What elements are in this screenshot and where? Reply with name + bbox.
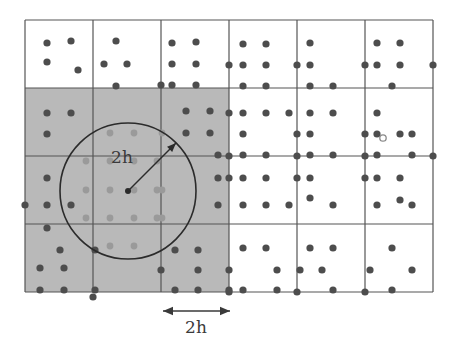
particle: [429, 61, 436, 68]
particle: [373, 201, 380, 208]
particle: [225, 61, 232, 68]
particle: [107, 130, 114, 137]
shaded-cell: [93, 224, 161, 292]
particle: [36, 264, 43, 271]
particle: [123, 60, 130, 67]
particle: [262, 61, 269, 68]
particle: [373, 61, 380, 68]
particle: [373, 109, 380, 116]
particle: [429, 152, 436, 159]
particle: [296, 266, 303, 273]
particle: [67, 109, 74, 116]
particle: [168, 81, 175, 88]
particle: [225, 288, 232, 295]
particle: [194, 246, 201, 253]
particle: [239, 201, 246, 208]
scale-bar-label: 2h: [185, 317, 207, 337]
particle: [157, 266, 164, 273]
particle: [306, 174, 313, 181]
particle: [396, 61, 403, 68]
particle: [43, 130, 50, 137]
particle: [329, 286, 336, 293]
particle: [239, 109, 246, 116]
particle: [56, 246, 63, 253]
particle: [239, 244, 246, 251]
particle: [373, 39, 380, 46]
particle: [329, 109, 336, 116]
particle: [306, 109, 313, 116]
particle: [83, 158, 90, 165]
particle: [361, 288, 368, 295]
particle: [43, 224, 50, 231]
particle: [306, 130, 313, 137]
particle: [225, 174, 232, 181]
particle: [408, 130, 415, 137]
particle: [43, 58, 50, 65]
particle-grid-diagram: 2h 2h: [0, 0, 456, 337]
particle: [361, 152, 368, 159]
shaded-cell: [161, 156, 229, 224]
particle: [318, 266, 325, 273]
particle: [239, 151, 246, 158]
particle: [293, 61, 300, 68]
particle: [83, 187, 90, 194]
particle: [83, 215, 90, 222]
particle: [225, 109, 232, 116]
particle: [67, 201, 74, 208]
particle: [293, 288, 300, 295]
particle: [262, 109, 269, 116]
particle: [306, 244, 313, 251]
particle: [168, 39, 175, 46]
particle: [361, 61, 368, 68]
particle: [67, 37, 74, 44]
particle: [43, 109, 50, 116]
particle: [388, 82, 395, 89]
particle: [262, 151, 269, 158]
particle: [91, 286, 98, 293]
particle: [388, 286, 395, 293]
particle: [285, 109, 292, 116]
particle: [171, 286, 178, 293]
particle: [168, 60, 175, 67]
particle: [396, 196, 403, 203]
particle: [107, 215, 114, 222]
radius-label: 2h: [111, 147, 133, 167]
particle: [293, 174, 300, 181]
particle: [43, 174, 50, 181]
particle: [214, 151, 221, 158]
particle: [388, 244, 395, 251]
particle: [131, 215, 138, 222]
particle: [159, 215, 166, 222]
particle: [373, 174, 380, 181]
particle: [214, 174, 221, 181]
particle: [192, 38, 199, 45]
particle: [306, 194, 313, 201]
particle: [262, 244, 269, 251]
particle: [262, 82, 269, 89]
particle: [192, 60, 199, 67]
particle: [131, 243, 138, 250]
particle: [373, 151, 380, 158]
particle: [206, 107, 213, 114]
particle: [306, 82, 313, 89]
particle: [89, 293, 96, 300]
particle: [408, 201, 415, 208]
particle: [159, 187, 166, 194]
particle: [396, 130, 403, 137]
particle: [239, 40, 246, 47]
particle: [396, 174, 403, 181]
shaded-cell: [93, 88, 161, 156]
particle: [239, 286, 246, 293]
particle: [74, 66, 81, 73]
particle: [262, 40, 269, 47]
shaded-cell: [161, 224, 229, 292]
particle: [182, 129, 189, 136]
particle: [285, 201, 292, 208]
particle: [131, 130, 138, 137]
particle: [107, 187, 114, 194]
particle: [112, 37, 119, 44]
particle: [329, 201, 336, 208]
particle: [273, 266, 280, 273]
particle: [214, 201, 221, 208]
particle: [262, 174, 269, 181]
